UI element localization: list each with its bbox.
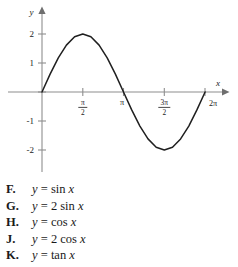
y-tick-label-1: 1 bbox=[30, 58, 35, 68]
equation-rel-K: = bbox=[38, 248, 51, 262]
equation-coeff-J: 2 bbox=[51, 232, 60, 246]
three-pi-over-2-numerator: 3π bbox=[161, 98, 169, 107]
answer-choice-K[interactable]: K. y = tan x bbox=[6, 247, 232, 264]
y-axis-arrowhead bbox=[38, 7, 45, 15]
equation-fn-F: sin bbox=[51, 182, 66, 196]
sine-curve-plot: y x 2 1 -1 -2 π 2 π 3π 2 2π bbox=[0, 0, 238, 178]
graph-figure: y x 2 1 -1 -2 π 2 π 3π 2 2π bbox=[0, 0, 238, 178]
equation-rel-J: = bbox=[38, 232, 51, 246]
answer-choice-letter-J: J. bbox=[6, 231, 32, 248]
answer-choice-G[interactable]: G. y = 2 sin x bbox=[6, 198, 232, 215]
pi-over-2-denominator: 2 bbox=[81, 108, 85, 117]
y-axis-label: y bbox=[29, 7, 34, 17]
answer-choice-H[interactable]: H. y = cos x bbox=[6, 214, 232, 231]
answer-choice-equation-F: y = sin x bbox=[32, 181, 74, 198]
x-axis-label: x bbox=[215, 78, 220, 88]
equation-var-G: x bbox=[78, 199, 84, 213]
x-tick-label-2pi: 2π bbox=[209, 99, 218, 108]
equation-var-H: x bbox=[71, 215, 77, 229]
answer-choices-list: F. y = sin x G. y = 2 sin x H. y = cos x… bbox=[6, 181, 232, 264]
answer-choice-equation-K: y = tan x bbox=[32, 247, 75, 264]
x-axis-arrowhead bbox=[222, 88, 230, 95]
equation-fn-K: tan bbox=[51, 248, 66, 262]
pi-over-2-numerator: π bbox=[81, 98, 85, 107]
answer-choice-equation-G: y = 2 sin x bbox=[32, 198, 84, 215]
x-tick-label-pi: π bbox=[120, 98, 125, 107]
equation-var-J: x bbox=[80, 232, 86, 246]
answer-choice-letter-K: K. bbox=[6, 247, 32, 264]
answer-choice-equation-J: y = 2 cos x bbox=[32, 231, 86, 248]
equation-fn-H: cos bbox=[51, 215, 68, 229]
x-tick-label-3pi-over-2: 3π 2 bbox=[158, 98, 170, 117]
equation-fn-J: cos bbox=[60, 232, 77, 246]
answer-choice-equation-H: y = cos x bbox=[32, 214, 76, 231]
x-tick-label-pi-over-2: π 2 bbox=[78, 98, 87, 117]
answer-choice-letter-H: H. bbox=[6, 214, 32, 231]
y-tick-label-neg1: -1 bbox=[27, 116, 35, 126]
equation-rel-H: = bbox=[38, 215, 51, 229]
equation-coeff-G: 2 bbox=[51, 199, 60, 213]
equation-var-F: x bbox=[69, 182, 75, 196]
y-tick-label-2: 2 bbox=[30, 29, 35, 39]
equation-var-K: x bbox=[69, 248, 75, 262]
equation-rel-G: = bbox=[38, 199, 51, 213]
equation-fn-G: sin bbox=[60, 199, 75, 213]
y-tick-label-neg2: -2 bbox=[27, 145, 35, 155]
equation-rel-F: = bbox=[38, 182, 51, 196]
answer-choice-F[interactable]: F. y = sin x bbox=[6, 181, 232, 198]
answer-choice-letter-G: G. bbox=[6, 198, 32, 215]
answer-choice-letter-F: F. bbox=[6, 181, 32, 198]
answer-choice-J[interactable]: J. y = 2 cos x bbox=[6, 231, 232, 248]
three-pi-over-2-denominator: 2 bbox=[162, 108, 166, 117]
